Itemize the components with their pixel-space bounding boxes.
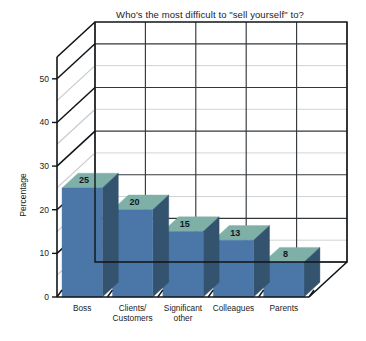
x-category-label: Clients/ [119, 303, 147, 313]
bar-3 [213, 226, 269, 297]
bar-value-label: 8 [283, 249, 288, 259]
x-category-label: Colleagues [213, 303, 255, 313]
y-tick-label: 40 [40, 117, 50, 127]
bar-chart-3d: Who's the most difficult to "sell yourse… [0, 0, 366, 341]
x-category-label: Parents [270, 303, 299, 313]
bar-1 [112, 195, 168, 297]
y-tick-label: 50 [40, 74, 50, 84]
bar-value-label: 20 [129, 197, 139, 207]
x-category-label: other [174, 313, 193, 323]
x-category-label: Significant [164, 303, 203, 313]
bar-side-face [102, 173, 118, 297]
y-axis-title: Percentage [18, 173, 28, 217]
bar-2 [163, 217, 219, 297]
bar-4 [264, 247, 320, 297]
y-tick-label: 0 [44, 292, 49, 302]
bar-0 [62, 173, 118, 297]
x-category-label: Boss [73, 303, 91, 313]
y-tick-label: 10 [40, 248, 50, 258]
x-category-label: Customers [113, 313, 153, 323]
y-tick-label: 30 [40, 161, 50, 171]
y-tick-label: 20 [40, 205, 50, 215]
bar-value-label: 15 [180, 219, 190, 229]
bar-value-label: 13 [230, 228, 240, 238]
bar-value-label: 25 [79, 175, 89, 185]
bar-side-face [153, 195, 169, 297]
chart-title: Who's the most difficult to "sell yourse… [116, 9, 304, 20]
bar-front-face [62, 188, 102, 297]
